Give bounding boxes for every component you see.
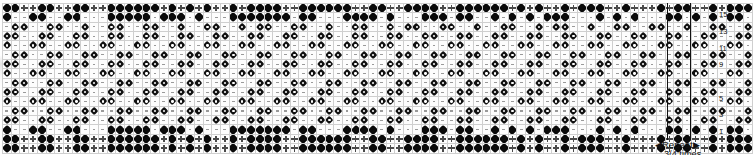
chart-cell[interactable] bbox=[325, 116, 334, 125]
chart-cell[interactable] bbox=[543, 32, 552, 41]
chart-cell[interactable] bbox=[334, 134, 343, 143]
chart-cell[interactable] bbox=[395, 78, 404, 87]
chart-cell[interactable] bbox=[90, 13, 99, 22]
chart-cell[interactable] bbox=[325, 106, 334, 115]
chart-cell[interactable] bbox=[648, 41, 657, 50]
chart-cell[interactable] bbox=[595, 50, 604, 59]
chart-cell[interactable] bbox=[438, 78, 447, 87]
chart-cell[interactable] bbox=[290, 106, 299, 115]
chart-cell[interactable] bbox=[360, 134, 369, 143]
chart-cell[interactable] bbox=[552, 134, 561, 143]
chart-cell[interactable] bbox=[369, 60, 378, 69]
chart-cell[interactable] bbox=[517, 69, 526, 78]
chart-cell[interactable] bbox=[517, 50, 526, 59]
chart-cell[interactable] bbox=[107, 97, 116, 106]
chart-cell[interactable] bbox=[325, 134, 334, 143]
chart-cell[interactable] bbox=[203, 13, 212, 22]
chart-cell[interactable] bbox=[3, 32, 12, 41]
chart-cell[interactable] bbox=[630, 116, 639, 125]
chart-cell[interactable] bbox=[377, 97, 386, 106]
chart-cell[interactable] bbox=[404, 50, 413, 59]
chart-cell[interactable] bbox=[473, 88, 482, 97]
chart-cell[interactable] bbox=[482, 4, 491, 13]
chart-cell[interactable] bbox=[46, 13, 55, 22]
chart-cell[interactable] bbox=[308, 50, 317, 59]
chart-cell[interactable] bbox=[308, 116, 317, 125]
chart-cell[interactable] bbox=[473, 22, 482, 31]
chart-cell[interactable] bbox=[64, 60, 73, 69]
chart-cell[interactable] bbox=[168, 125, 177, 134]
chart-cell[interactable] bbox=[98, 134, 107, 143]
chart-cell[interactable] bbox=[168, 32, 177, 41]
chart-cell[interactable] bbox=[194, 50, 203, 59]
chart-cell[interactable] bbox=[133, 32, 142, 41]
chart-cell[interactable] bbox=[700, 97, 709, 106]
chart-cell[interactable] bbox=[543, 116, 552, 125]
chart-cell[interactable] bbox=[133, 144, 142, 153]
chart-cell[interactable] bbox=[194, 4, 203, 13]
chart-cell[interactable] bbox=[107, 116, 116, 125]
chart-cell[interactable] bbox=[81, 78, 90, 87]
chart-cell[interactable] bbox=[691, 22, 700, 31]
chart-cell[interactable] bbox=[55, 125, 64, 134]
chart-cell[interactable] bbox=[107, 106, 116, 115]
chart-cell[interactable] bbox=[229, 106, 238, 115]
chart-cell[interactable] bbox=[229, 97, 238, 106]
chart-cell[interactable] bbox=[395, 22, 404, 31]
chart-cell[interactable] bbox=[674, 41, 683, 50]
chart-cell[interactable] bbox=[438, 41, 447, 50]
chart-cell[interactable] bbox=[622, 116, 631, 125]
chart-cell[interactable] bbox=[587, 60, 596, 69]
chart-cell[interactable] bbox=[700, 50, 709, 59]
chart-cell[interactable] bbox=[116, 32, 125, 41]
chart-cell[interactable] bbox=[482, 60, 491, 69]
chart-cell[interactable] bbox=[561, 41, 570, 50]
chart-cell[interactable] bbox=[613, 41, 622, 50]
chart-cell[interactable] bbox=[37, 106, 46, 115]
chart-cell[interactable] bbox=[107, 60, 116, 69]
chart-cell[interactable] bbox=[90, 4, 99, 13]
chart-cell[interactable] bbox=[168, 88, 177, 97]
chart-cell[interactable] bbox=[177, 116, 186, 125]
chart-cell[interactable] bbox=[622, 69, 631, 78]
chart-cell[interactable] bbox=[552, 97, 561, 106]
chart-cell[interactable] bbox=[604, 41, 613, 50]
chart-cell[interactable] bbox=[247, 32, 256, 41]
chart-cell[interactable] bbox=[98, 116, 107, 125]
chart-cell[interactable] bbox=[648, 88, 657, 97]
chart-grid-container[interactable] bbox=[2, 3, 753, 154]
chart-cell[interactable] bbox=[142, 69, 151, 78]
chart-cell[interactable] bbox=[264, 144, 273, 153]
chart-cell[interactable] bbox=[37, 50, 46, 59]
chart-cell[interactable] bbox=[308, 4, 317, 13]
chart-cell[interactable] bbox=[613, 78, 622, 87]
chart-cell[interactable] bbox=[308, 97, 317, 106]
chart-cell[interactable] bbox=[325, 97, 334, 106]
chart-cell[interactable] bbox=[674, 32, 683, 41]
chart-cell[interactable] bbox=[543, 78, 552, 87]
chart-cell[interactable] bbox=[273, 69, 282, 78]
chart-cell[interactable] bbox=[37, 69, 46, 78]
chart-cell[interactable] bbox=[351, 125, 360, 134]
chart-cell[interactable] bbox=[360, 69, 369, 78]
chart-cell[interactable] bbox=[107, 13, 116, 22]
chart-cell[interactable] bbox=[386, 60, 395, 69]
chart-cell[interactable] bbox=[543, 4, 552, 13]
chart-cell[interactable] bbox=[613, 69, 622, 78]
chart-cell[interactable] bbox=[412, 50, 421, 59]
chart-cell[interactable] bbox=[369, 88, 378, 97]
chart-cell[interactable] bbox=[561, 106, 570, 115]
chart-cell[interactable] bbox=[674, 13, 683, 22]
chart-cell[interactable] bbox=[116, 106, 125, 115]
chart-cell[interactable] bbox=[482, 50, 491, 59]
chart-cell[interactable] bbox=[290, 4, 299, 13]
chart-cell[interactable] bbox=[90, 69, 99, 78]
chart-cell[interactable] bbox=[334, 60, 343, 69]
chart-cell[interactable] bbox=[543, 97, 552, 106]
chart-cell[interactable] bbox=[20, 78, 29, 87]
chart-cell[interactable] bbox=[29, 144, 38, 153]
chart-cell[interactable] bbox=[360, 144, 369, 153]
chart-cell[interactable] bbox=[194, 116, 203, 125]
chart-cell[interactable] bbox=[72, 88, 81, 97]
chart-cell[interactable] bbox=[587, 50, 596, 59]
